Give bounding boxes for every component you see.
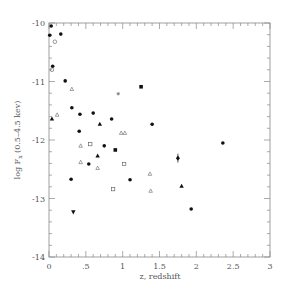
data-point-filled-triangle xyxy=(179,184,183,188)
y-axis-label-tail: (0.5–4.5 kev) xyxy=(13,101,22,156)
data-point-filled-circle xyxy=(110,117,114,121)
y-tick-label: -13 xyxy=(32,195,45,204)
data-point-filled-circle xyxy=(77,129,81,133)
data-point-filled-circle xyxy=(128,178,132,182)
y-tick-label: -10 xyxy=(32,19,45,28)
data-point-open-triangle xyxy=(119,131,123,134)
data-point-open-square xyxy=(111,187,114,190)
x-tick-label: 1 xyxy=(120,262,125,271)
data-point-filled-triangle xyxy=(98,122,102,126)
data-point-open-triangle xyxy=(149,189,153,192)
data-point-filled-circle xyxy=(70,106,74,110)
data-point-filled-circle xyxy=(102,144,106,148)
data-point-filled-circle xyxy=(63,79,67,83)
x-tick-label: 0 xyxy=(46,262,51,271)
y-tick-label: -14 xyxy=(32,253,45,262)
scatter-chart: 0.511.522.53-10-11-12-13-14 z, redshift … xyxy=(0,0,283,292)
data-point-open-triangle xyxy=(148,172,152,175)
data-point-open-triangle xyxy=(70,87,74,90)
data-point-filled-circle xyxy=(51,64,55,68)
data-point-filled-diamond-errorbar xyxy=(176,154,180,163)
data-point-filled-circle xyxy=(69,177,73,181)
data-point-filled-circle xyxy=(87,162,91,166)
data-point-filled-circle xyxy=(91,111,95,115)
data-point-filled-triangle xyxy=(50,117,54,121)
data-point-filled-circle xyxy=(48,33,52,37)
data-point-filled-circle xyxy=(59,32,63,36)
data-point-open-triangle xyxy=(55,113,59,116)
data-point-filled-triangle xyxy=(95,153,99,157)
data-point-open-triangle xyxy=(123,131,127,134)
data-point-open-square xyxy=(122,162,125,165)
data-point-open-circle xyxy=(53,40,57,44)
data-point-filled-triangle-down xyxy=(71,210,75,214)
x-tick-label: 3 xyxy=(267,262,272,271)
data-point-filled-circle xyxy=(189,207,193,211)
x-axis-label: z, redshift xyxy=(140,272,182,281)
data-point-open-triangle xyxy=(79,144,83,147)
y-tick-label: -11 xyxy=(32,78,45,87)
data-point-asterisk xyxy=(116,92,120,96)
x-tick-label: 1.5 xyxy=(153,262,166,271)
y-axis-label-main: log F xyxy=(13,158,22,179)
data-point-open-triangle xyxy=(96,166,100,169)
x-tick-label: 2 xyxy=(194,262,199,271)
y-tick-label: -12 xyxy=(32,136,45,145)
data-point-filled-square xyxy=(114,148,118,152)
data-point-filled-circle xyxy=(78,112,82,116)
data-point-open-square xyxy=(89,142,92,145)
y-axis-label: log Fx (0.5–4.5 kev) xyxy=(13,101,23,180)
x-tick-label: .5 xyxy=(82,262,90,271)
data-point-filled-circle xyxy=(49,24,53,28)
x-tick-label: 2.5 xyxy=(227,262,240,271)
data-point-filled-circle xyxy=(150,122,154,126)
diamond-marker xyxy=(176,156,180,161)
data-point-filled-circle xyxy=(221,141,225,145)
data-point-filled-square xyxy=(139,85,143,89)
plot-frame xyxy=(49,23,270,257)
data-point-open-triangle xyxy=(79,160,83,163)
